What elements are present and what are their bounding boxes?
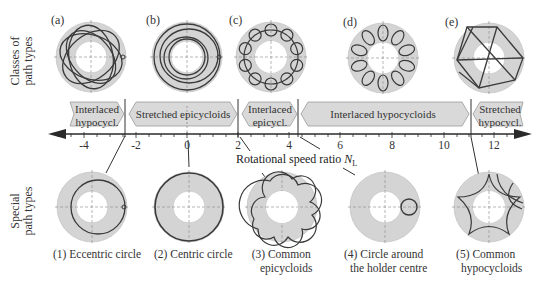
- region-label-line1: Interlaced hypocycloids: [330, 108, 435, 121]
- tick-label: 2: [235, 139, 241, 151]
- tick-label: 4: [286, 139, 292, 151]
- region-label-interlaced-epicycl: Interlaced epicycl.: [248, 103, 292, 129]
- class-c-diagram: [234, 20, 308, 94]
- special-2-centric-circle: [152, 170, 226, 244]
- special-4-circle-around-holder-centre: [348, 170, 422, 244]
- caption-line2: hypocycloids: [449, 261, 522, 275]
- panel-letter-e: (e): [445, 15, 458, 30]
- axis-title-text: Rotational speed ratio: [236, 152, 344, 166]
- row-label-special: Special path types: [9, 176, 35, 246]
- class-a-diagram: [52, 20, 129, 95]
- tick-label: 8: [389, 139, 395, 151]
- path-types-diagram: Classes of path types Special path types…: [0, 0, 544, 286]
- special-1-eccentric-circle: [55, 170, 129, 244]
- caption-line1: (1) Eccentric circle: [53, 247, 141, 261]
- axis-arrow-right-icon: [514, 129, 532, 139]
- caption-special-3: (3) Common epicycloids: [250, 247, 312, 275]
- caption-line1: (5) Common: [449, 247, 522, 261]
- panel-letter-a: (a): [51, 13, 64, 28]
- special-5-common-hypocycloids: [452, 170, 526, 244]
- tick-label: -2: [131, 139, 141, 151]
- caption-special-2: (2) Centric circle: [154, 247, 233, 261]
- caption-line1: (4) Circle around: [340, 247, 427, 261]
- tick-label: 10: [438, 139, 450, 151]
- tick-label: 12: [488, 139, 500, 151]
- panel-letter-b: (b): [146, 13, 160, 28]
- tick-label: -4: [79, 139, 89, 151]
- region-label-interlaced-hypocycl: Interlaced hypocycl.: [75, 103, 119, 129]
- region-label-line2: epicycl.: [248, 116, 292, 129]
- axis-title-subscript: L: [352, 159, 357, 168]
- caption-line2: the holder centre: [340, 261, 427, 275]
- region-label-line2: hypocycl.: [75, 116, 119, 129]
- region-label-interlaced-hypocycloids: Interlaced hypocycloids: [330, 108, 435, 121]
- caption-line2: epicycloids: [250, 261, 312, 275]
- caption-line1: (3) Common: [250, 247, 312, 261]
- region-label-line1: Interlaced: [248, 103, 292, 116]
- region-label-line1: Interlaced: [75, 103, 119, 116]
- class-b-diagram: [150, 20, 224, 94]
- region-label-line2: hypocycl.: [478, 116, 521, 129]
- axis-arrow-left-icon: [48, 129, 66, 139]
- region-label-line1: Stretched: [478, 103, 521, 116]
- region-label-stretched-hypocycl: Stretched hypocycl.: [478, 103, 521, 129]
- row-label-classes: Classes of path types: [9, 26, 35, 96]
- special-3-common-epicycloids: [239, 170, 321, 248]
- caption-line1: (2) Centric circle: [154, 247, 233, 261]
- axis-title: Rotational speed ratio NL: [236, 152, 357, 168]
- tick-label: 0: [184, 139, 190, 151]
- row-label-special-line2: path types: [22, 176, 35, 246]
- caption-special-4: (4) Circle around the holder centre: [340, 247, 427, 275]
- region-label-line1: Stretched epicycloids: [136, 108, 230, 121]
- row-label-classes-line2: path types: [22, 26, 35, 96]
- panel-letter-c: (c): [229, 13, 242, 28]
- class-d-diagram: [346, 21, 420, 95]
- class-e-diagram: [452, 21, 526, 95]
- region-label-stretched-epicycloids: Stretched epicycloids: [136, 108, 230, 121]
- panel-letter-d: (d): [343, 15, 357, 30]
- caption-special-5: (5) Common hypocycloids: [449, 247, 522, 275]
- tick-label: 6: [337, 139, 343, 151]
- caption-special-1: (1) Eccentric circle: [53, 247, 141, 261]
